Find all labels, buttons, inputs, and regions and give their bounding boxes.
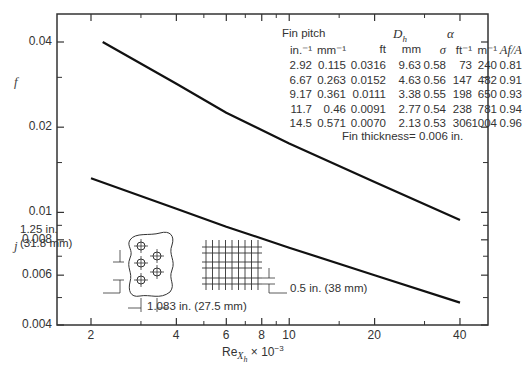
dh-header-main: D: [393, 26, 402, 41]
x-tick-label: 10: [282, 328, 295, 342]
y-tick-label: 0.01: [29, 204, 52, 218]
x-axis-label-main: Re: [222, 345, 237, 359]
x-tick-label: 2: [88, 328, 95, 342]
y-axis-label-f: f: [14, 74, 18, 90]
y-tick-label: 0.006: [22, 267, 52, 281]
x-tick-label: 20: [368, 328, 381, 342]
x-axis-label-exp: −3: [274, 344, 283, 353]
x-tick-label: 40: [453, 328, 466, 342]
fin-thickness-note: Fin thickness= 0.006 in.: [342, 130, 463, 142]
y-tick-label: 0.02: [29, 119, 52, 133]
x-tick-label: 6: [223, 328, 230, 342]
table-cell: 0.96: [462, 117, 522, 129]
x-tick-label: 8: [258, 328, 265, 342]
tube-spacing-mm-label: (31.8 mm): [20, 237, 72, 249]
dh-header: Dh: [393, 26, 407, 44]
alpha-header: α: [447, 26, 454, 42]
table-cell: 0.81: [462, 59, 522, 71]
column-header: Af/A: [462, 43, 522, 58]
y-axis-label-j: j: [14, 238, 18, 254]
y-tick-label: 0.04: [29, 34, 52, 48]
fin-spacing-label: 0.5 in. (38 mm): [290, 282, 367, 294]
x-axis-label: ReXh × 10−3: [222, 344, 284, 364]
tube-spacing-label: 1.25 in.: [20, 223, 58, 235]
x-axis-label-suffix: × 10: [247, 345, 274, 359]
y-tick-label: 0.004: [22, 317, 52, 331]
table-cell: 0.91: [462, 74, 522, 86]
tube-bank-outline: [129, 232, 173, 296]
table-cell: 0.94: [462, 103, 522, 115]
fin-pitch-header: Fin pitch: [282, 27, 325, 39]
curve-j: [91, 178, 460, 302]
row-spacing-label: 1.083 in. (27.5 mm): [147, 300, 247, 312]
table-cell: 0.93: [462, 88, 522, 100]
x-tick-label: 4: [173, 328, 180, 342]
